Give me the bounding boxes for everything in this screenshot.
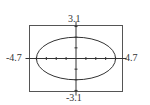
y-min-label: -3.1 <box>66 93 82 103</box>
y-max-label: 3.1 <box>68 14 81 24</box>
x-max-label: 4.7 <box>125 53 138 63</box>
x-min-label: -4.7 <box>6 53 22 63</box>
